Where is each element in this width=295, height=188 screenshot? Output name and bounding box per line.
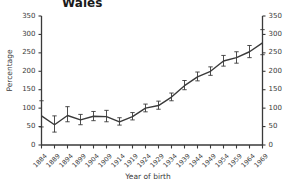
plot-area (0, 0, 295, 188)
chart-container: Wales Percentage Year of birth 050100150… (0, 0, 295, 188)
